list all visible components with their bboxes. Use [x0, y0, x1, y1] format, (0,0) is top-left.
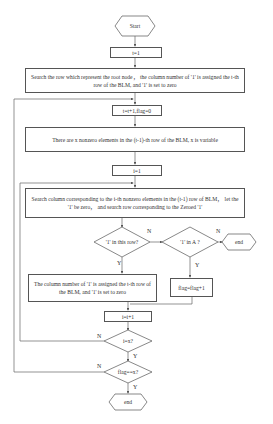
search-root-box: Search the row which represent the root … — [25, 68, 245, 93]
branch-label-n: N — [97, 363, 101, 369]
decision-flag-eq-x-label: flag==x? — [106, 366, 150, 378]
start-label: Start — [115, 16, 155, 36]
flag-increment-box: flag=flag+1 — [170, 278, 213, 297]
branch-label-y: Y — [133, 353, 137, 359]
branch-label-n: N — [147, 228, 151, 234]
decision-in-A-label: '1' in A ? — [166, 236, 214, 248]
end-right-label: end — [222, 234, 256, 250]
nonzero-count-box: There are x nonzero elements in the (t-1… — [25, 127, 245, 152]
branch-label-n: N — [97, 333, 101, 339]
branch-label-n: N — [216, 228, 220, 234]
end-bottom-label: end — [109, 394, 147, 410]
init-i-box: i=1 — [112, 165, 162, 176]
assign-column-box: The column number of '1' is assigned the… — [28, 274, 157, 302]
increment-t-box: t=t+1,flag=0 — [112, 105, 162, 116]
branch-label-y: Y — [117, 260, 121, 266]
search-column-box: Search column corresponding to the i-th … — [25, 188, 245, 218]
branch-label-y: Y — [133, 384, 137, 390]
init-t-box: t=1 — [110, 47, 162, 58]
decision-i-eq-x-label: i=x? — [108, 335, 148, 347]
branch-label-y: Y — [195, 262, 199, 268]
increment-i-box: i=i+1 — [104, 311, 152, 322]
decision-in-row-label: '1' in this row? — [96, 236, 148, 248]
